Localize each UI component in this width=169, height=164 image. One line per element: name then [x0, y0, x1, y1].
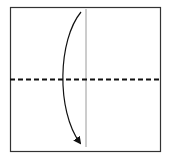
fold-diagram — [0, 0, 169, 164]
